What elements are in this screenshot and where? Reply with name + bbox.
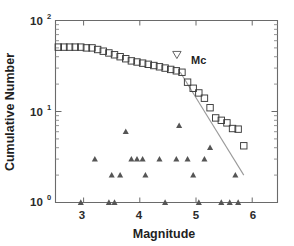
x-axis-title: Magnitude bbox=[133, 227, 196, 241]
chart-figure: 3 4 5 6 10 2 10 1 10 0 Magnitude Cumulat… bbox=[0, 0, 294, 246]
ytick-label-1-exp: 0 bbox=[47, 193, 51, 202]
ytick-label-1-base: 10 bbox=[30, 196, 43, 208]
ytick-label-10-exp: 1 bbox=[47, 103, 51, 112]
xtick-label-3: 3 bbox=[79, 209, 85, 221]
mc-label: Mc bbox=[191, 54, 206, 66]
ytick-label-10-base: 10 bbox=[30, 106, 43, 118]
xtick-label-5: 5 bbox=[193, 209, 200, 221]
xtick-label-4: 4 bbox=[136, 209, 143, 221]
ytick-label-100-base: 10 bbox=[30, 15, 43, 27]
chart-canvas: 3 4 5 6 10 2 10 1 10 0 Magnitude Cumulat… bbox=[0, 0, 294, 246]
ytick-label-100-exp: 2 bbox=[47, 12, 51, 21]
y-axis-title: Cumulative Number bbox=[3, 53, 17, 171]
xtick-label-6: 6 bbox=[250, 209, 256, 221]
